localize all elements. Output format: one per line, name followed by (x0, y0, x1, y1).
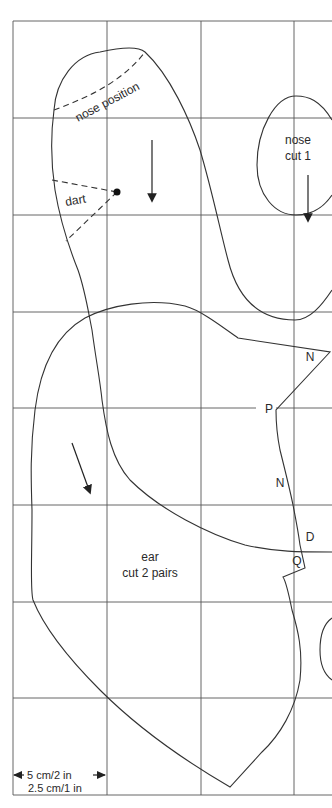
marker-q: Q (292, 554, 301, 568)
label-ear: ear (141, 550, 158, 564)
scale-label-small: 2.5 cm/1 in (28, 782, 82, 794)
grainline-arrow-ear (72, 443, 89, 490)
scale-label-large: 5 cm/2 in (27, 769, 72, 781)
marker-d: D (306, 530, 315, 544)
arrow-left-icon (13, 771, 22, 779)
nose-piece: nose cut 1 (257, 96, 332, 218)
label-dart: dart (64, 191, 87, 208)
label-nose-cut: cut 1 (285, 149, 311, 163)
head-piece: nose position dart (52, 48, 332, 552)
marker-n-top: N (306, 350, 315, 364)
ear-piece: ear cut 2 pairs (31, 303, 330, 787)
label-ear-cut: cut 2 pairs (122, 566, 177, 580)
dart-point (114, 189, 121, 196)
label-nose: nose (285, 133, 311, 147)
notch-markers: N P N D Q (265, 350, 315, 568)
pattern-diagram: nose position dart nose cut 1 ear cut 2 … (0, 0, 332, 808)
marker-p: P (265, 402, 273, 416)
scale-indicator: 5 cm/2 in 2.5 cm/1 in (13, 769, 106, 794)
arrow-right-icon (97, 771, 106, 779)
partial-piece-right (320, 618, 332, 680)
marker-n-mid: N (276, 476, 285, 490)
